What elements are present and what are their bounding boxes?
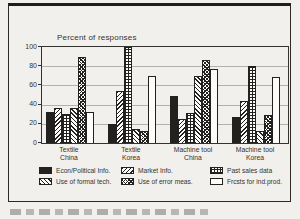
bar-checker-group2 [140,131,148,143]
bar-grid-group1 [62,114,70,143]
bar-diagonal-back-group3 [194,76,202,143]
legend-item: Frcsts for ind.prod. [210,178,282,185]
y-tick-label-20: 20 [13,119,37,126]
y-tick-label-0: 0 [13,139,37,146]
x-category-label: Machine toolKorea [220,146,290,161]
y-tick-label-100: 100 [13,43,37,50]
legend-label: Econ/Political Info. [56,167,110,174]
y-tick-label-80: 80 [13,62,37,69]
legend-swatch-grid [210,167,223,174]
legend-label: Market Info. [138,167,173,174]
legend-swatch-white [210,178,223,185]
plot-area [41,46,289,144]
x-category-label: TextileChina [34,146,104,161]
bar-solid-black-group2 [108,124,116,143]
bar-diagonal-back-group4 [256,131,264,143]
bar-solid-black-group3 [170,96,178,143]
bar-diagonal-forward-group2 [116,91,124,143]
legend-label: Frcsts for ind.prod. [227,178,282,185]
bar-diagonal-forward-group3 [178,119,186,143]
legend-swatch-diagonal-forward [121,167,134,174]
y-tick-mark [38,142,41,143]
legend-swatch-solid-black [39,167,52,174]
legend: Econ/Political Info.Market Info.Past sal… [39,167,282,185]
legend-item: Market Info. [121,167,210,174]
bar-white-group1 [86,112,94,143]
y-tick-mark [38,65,41,66]
x-category-label: Machine toolChina [158,146,228,161]
legend-item: Use of formal tech. [39,178,121,185]
bar-solid-black-group4 [232,117,240,143]
y-tick-mark [38,84,41,85]
x-category-label: TextileKorea [96,146,166,161]
legend-item: Econ/Political Info. [39,167,121,174]
legend-label: Use of error meas. [138,178,193,185]
legend-item: Use of error meas. [121,178,210,185]
figure-frame: Percent of responses 020406080100 Textil… [8,3,291,202]
legend-swatch-checker [121,178,134,185]
bar-white-group4 [272,77,280,143]
bar-grid-group3 [186,113,194,143]
y-tick-mark [38,123,41,124]
bar-diagonal-forward-group4 [240,101,248,143]
bar-grid-group2 [124,47,132,143]
bar-white-group2 [148,76,156,143]
cropped-caption-text [10,209,208,215]
chart-title: Percent of responses [57,33,137,42]
legend-label: Past sales data [227,167,272,174]
legend-swatch-diagonal-back [39,178,52,185]
y-tick-label-60: 60 [13,81,37,88]
y-tick-mark [38,46,41,47]
bar-grid-group4 [248,66,256,143]
bar-diagonal-back-group1 [70,108,78,143]
y-tick-mark [38,104,41,105]
y-tick-label-40: 40 [13,100,37,107]
bar-diagonal-back-group2 [132,129,140,143]
bar-solid-black-group1 [46,112,54,143]
bar-diagonal-forward-group1 [54,108,62,143]
bar-white-group3 [210,69,218,143]
bar-checker-group1 [78,57,86,143]
legend-item: Past sales data [210,167,282,174]
legend-label: Use of formal tech. [56,178,111,185]
bar-checker-group3 [202,60,210,143]
bar-checker-group4 [264,115,272,143]
